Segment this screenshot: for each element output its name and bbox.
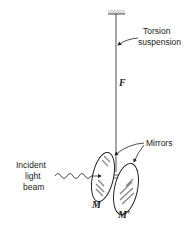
mirror-m-label: M <box>91 199 102 210</box>
incident-label-line1: Incident <box>16 160 46 170</box>
mirrors-pointer-arrow-m-prime <box>134 145 144 162</box>
torsion-label-line1: Torsion <box>143 26 171 36</box>
incident-label-line2: light <box>25 171 41 181</box>
mirrors-label: Mirrors <box>146 138 172 148</box>
torsion-label-line2: suspension <box>138 37 181 47</box>
fiber-label: F <box>118 77 126 88</box>
torsion-pendulum-diagram: Torsion suspension F Mirrors Incident li… <box>0 0 191 228</box>
ceiling-support-icon <box>108 10 125 14</box>
torsion-pointer-arrow <box>118 38 138 45</box>
mirrors-pointer-arrow-m <box>115 143 144 155</box>
mirror-m-prime-label: M' <box>117 209 130 220</box>
incident-label-line3: beam <box>23 182 44 192</box>
